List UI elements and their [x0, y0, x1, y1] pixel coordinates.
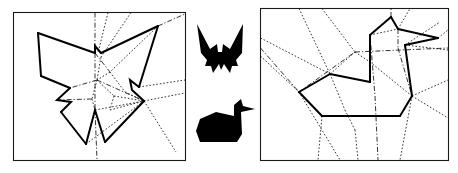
origami-figure	[0, 0, 458, 173]
duck-model-silhouette	[196, 99, 255, 142]
butterfly-model-silhouette	[197, 24, 243, 73]
model-silhouettes	[0, 0, 458, 173]
